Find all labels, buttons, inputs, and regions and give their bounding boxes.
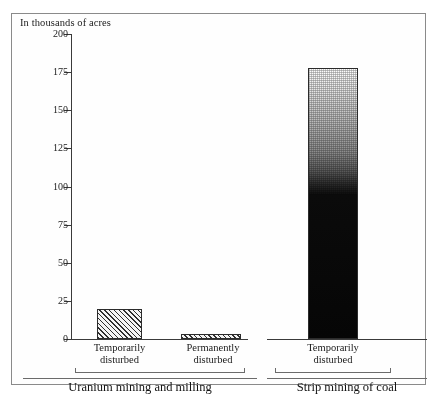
y-tick-label: 25	[58, 296, 68, 306]
x-axis-line-group-coal	[267, 339, 427, 340]
plot-area: 200 175 150 125 100 75 50 25	[71, 34, 427, 339]
y-tick-label: 175	[53, 67, 68, 77]
y-tick-label: 200	[53, 29, 68, 39]
group-rule-uranium	[23, 378, 257, 379]
bar-uranium-temporarily-disturbed[interactable]	[97, 309, 142, 340]
bar-coal-temporarily-disturbed[interactable]	[308, 68, 358, 340]
y-axis-title: In thousands of acres	[20, 17, 111, 28]
y-tick-label: 50	[58, 258, 68, 268]
category-label-line2: disturbed	[67, 354, 172, 366]
group-rule-coal	[267, 378, 427, 379]
y-tick-label: 75	[58, 220, 68, 230]
y-tick-label: 150	[53, 105, 68, 115]
group-bracket-uranium	[75, 368, 245, 373]
category-label-uranium-permanent: Permanently disturbed	[163, 342, 263, 365]
category-label-line1: Permanently	[163, 342, 263, 354]
category-label-line2: disturbed	[163, 354, 263, 366]
group-bracket-coal	[275, 368, 391, 373]
category-label-uranium-temporary: Temporarily disturbed	[67, 342, 172, 365]
y-tick-label: 125	[53, 143, 68, 153]
group-label-uranium: Uranium mining and milling	[23, 380, 257, 395]
category-label-line1: Temporarily	[283, 342, 383, 354]
y-tick-label: 100	[53, 182, 68, 192]
bar-uranium-permanently-disturbed[interactable]	[181, 334, 241, 339]
chart-figure-frame: In thousands of acres 200 175 150 125 10…	[11, 13, 426, 385]
group-label-coal: Strip mining of coal	[267, 380, 427, 395]
y-axis-line	[71, 34, 72, 339]
category-label-coal-temporary: Temporarily disturbed	[283, 342, 383, 365]
category-label-line2: disturbed	[283, 354, 383, 366]
category-label-line1: Temporarily	[67, 342, 172, 354]
x-axis-line-group-uranium	[71, 339, 248, 340]
